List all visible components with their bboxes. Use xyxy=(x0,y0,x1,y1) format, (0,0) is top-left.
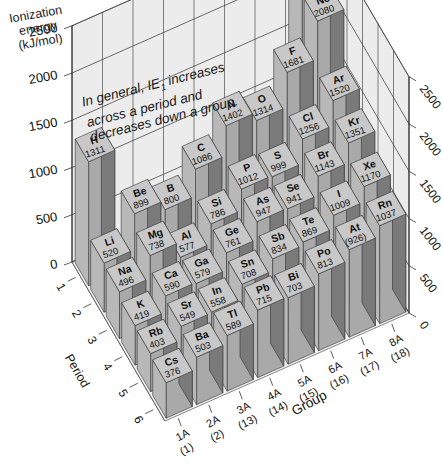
z-axis-tick-label: 1500 xyxy=(27,114,58,134)
period-tick xyxy=(130,383,138,387)
z-axis-tick xyxy=(64,73,72,76)
right-z-axis-tick-label: 1000 xyxy=(417,224,443,254)
period-tick-label: 1 xyxy=(53,281,69,294)
period-tick xyxy=(145,410,153,414)
group-tick xyxy=(239,391,242,399)
right-z-axis-tick xyxy=(409,313,416,317)
period-tick xyxy=(114,357,122,361)
right-z-axis-tick xyxy=(409,266,416,270)
group-tick xyxy=(392,324,395,332)
right-z-axis-tick-label: 2500 xyxy=(417,82,443,112)
right-z-axis-tick-label: 1500 xyxy=(417,176,443,206)
group-tick-sublabel: (2) xyxy=(208,427,226,444)
z-axis-tick-label: 1000 xyxy=(27,162,58,182)
period-tick xyxy=(99,330,107,334)
z-axis-tick-label: 500 xyxy=(35,209,59,228)
period-tick xyxy=(68,277,76,281)
group-tick xyxy=(209,405,212,413)
right-z-axis-tick-label: 0 xyxy=(417,318,432,332)
period-tick-label: 3 xyxy=(84,334,100,347)
z-axis-tick xyxy=(64,120,72,123)
z-axis-tick xyxy=(64,168,72,171)
period-tick-label: 4 xyxy=(100,360,116,373)
period-tick-label: 2 xyxy=(69,307,85,320)
right-z-axis-tick-label: 500 xyxy=(417,271,441,296)
z-axis-tick xyxy=(64,262,72,265)
right-z-axis-tick xyxy=(409,124,416,128)
period-tick-label: 5 xyxy=(115,387,131,400)
period-tick xyxy=(83,304,91,308)
bar-left-face xyxy=(75,139,88,286)
period-tick-label: 6 xyxy=(131,413,147,426)
z-axis-tick-label: 0 xyxy=(49,256,59,272)
group-tick-sublabel: (1) xyxy=(178,440,196,457)
right-z-axis-tick xyxy=(409,77,416,81)
z-axis-tick-label: 2000 xyxy=(27,67,58,87)
group-tick xyxy=(331,351,334,359)
right-z-axis-tick-label: 2000 xyxy=(417,129,443,159)
group-tick xyxy=(361,337,364,345)
group-tick xyxy=(178,418,181,426)
group-tick xyxy=(270,378,273,386)
z-axis-tick xyxy=(64,215,72,218)
right-z-axis-tick xyxy=(409,171,416,175)
right-z-axis-tick xyxy=(409,219,416,223)
group-tick xyxy=(300,364,303,372)
period-axis-title: Period xyxy=(62,352,92,390)
